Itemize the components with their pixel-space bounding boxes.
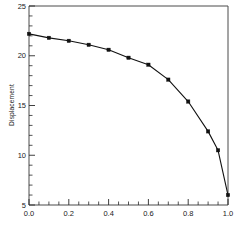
data-point [226,193,229,196]
y-axis-title: Displacement [8,84,16,126]
plot-area-background [29,6,228,205]
x-tick-label-1: 0.2 [64,209,74,218]
data-point [147,63,150,66]
x-tick-label-0: 0.0 [24,209,34,218]
y-tick-label-10: 10 [18,151,26,160]
data-point [47,36,50,39]
y-tick-label-15: 15 [18,101,26,110]
x-tick-label-4: 0.8 [183,209,193,218]
data-point [216,149,219,152]
line-chart: 25 20 15 10 5 0.0 0.2 0.4 0.6 0.8 1.0 Di… [0,0,241,227]
data-point [187,100,190,103]
chart-figure: 25 20 15 10 5 0.0 0.2 0.4 0.6 0.8 1.0 Di… [0,0,241,227]
data-point [27,32,30,35]
data-point [107,48,110,51]
x-tick-label-5: 1.0 [223,209,233,218]
data-point [206,130,209,133]
y-tick-label-25: 25 [18,2,26,11]
data-point [67,39,70,42]
data-point [127,56,130,59]
data-point [87,43,90,46]
y-tick-label-20: 20 [18,51,26,60]
data-point [167,78,170,81]
x-tick-label-2: 0.4 [103,209,113,218]
x-tick-label-3: 0.6 [143,209,153,218]
